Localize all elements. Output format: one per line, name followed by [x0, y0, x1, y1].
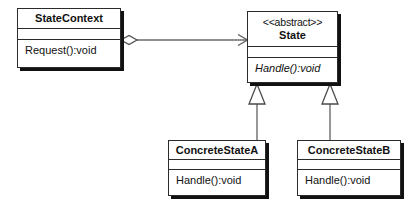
uml-diagram-canvas: StateContext Request():void <<abstract>>… [0, 0, 418, 210]
class-name-compartment: ConcreteStateB [298, 141, 400, 160]
class-operations-compartment: Handle():void [298, 170, 400, 190]
operation-label: Request():void [25, 43, 113, 57]
hollow-diamond-icon [121, 36, 137, 45]
uml-class-concretestateb[interactable]: ConcreteStateB Handle():void [297, 140, 401, 196]
class-name-compartment: StateContext [18, 9, 120, 29]
generalization-connector-concretestatea-state[interactable] [249, 84, 265, 140]
class-attributes-compartment [18, 29, 120, 40]
uml-class-state[interactable]: <<abstract>> State Handle():void [247, 11, 338, 83]
class-attributes-compartment [248, 47, 337, 58]
class-name-label: State [279, 29, 306, 42]
generalization-connector-concretestateb-state[interactable] [322, 84, 338, 140]
class-attributes-compartment [298, 160, 400, 170]
class-name-compartment: <<abstract>> State [248, 12, 337, 47]
class-operations-compartment: Handle():void [248, 58, 337, 78]
class-stereotype-label: <<abstract>> [263, 16, 322, 29]
class-attributes-compartment [169, 160, 265, 170]
uml-class-concretestatea[interactable]: ConcreteStateA Handle():void [168, 140, 266, 196]
hollow-triangle-icon [249, 84, 265, 104]
class-operations-compartment: Request():void [18, 40, 120, 60]
operation-label: Handle():void [305, 173, 393, 187]
class-name-label: ConcreteStateB [308, 144, 391, 157]
operation-label: Handle():void [255, 61, 330, 75]
operation-label: Handle():void [176, 173, 258, 187]
class-name-label: ConcreteStateA [176, 144, 259, 157]
aggregation-connector-statecontext-state[interactable] [121, 35, 248, 46]
uml-class-statecontext[interactable]: StateContext Request():void [17, 8, 121, 68]
class-name-label: StateContext [35, 12, 103, 25]
class-operations-compartment: Handle():void [169, 170, 265, 190]
hollow-triangle-icon [322, 84, 338, 104]
class-name-compartment: ConcreteStateA [169, 141, 265, 160]
